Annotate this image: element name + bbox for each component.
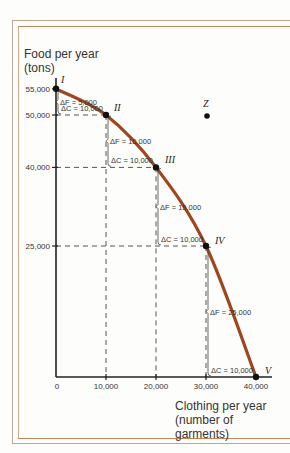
- x-tick-label: 0: [55, 382, 60, 391]
- point-label-iii: III: [164, 154, 176, 165]
- x-tick-label: 20,000: [144, 382, 169, 391]
- ppf-chart: 55,00050,00040,00025,000010,00020,00030,…: [0, 0, 290, 453]
- delta-c-label: ΔC = 10,000: [161, 235, 203, 244]
- point-z: [204, 113, 210, 119]
- delta-f-label: ΔF = 15,000: [160, 203, 201, 212]
- delta-f-label: ΔF = 10,000: [110, 137, 151, 146]
- point-ii: [103, 112, 109, 118]
- x-tick-label: 40,000: [244, 382, 269, 391]
- point-label-iv: IV: [214, 235, 226, 246]
- point-label-z: Z: [203, 98, 209, 109]
- x-tick-label: 30,000: [194, 382, 219, 391]
- point-v: [253, 374, 259, 380]
- point-i: [53, 86, 59, 92]
- point-label-v: V: [265, 365, 273, 376]
- point-label-i: I: [60, 74, 65, 85]
- y-tick-label: 50,000: [26, 111, 51, 120]
- y-tick-label: 40,000: [26, 163, 51, 172]
- point-iv: [203, 243, 209, 249]
- point-iii: [153, 164, 159, 170]
- delta-c-label: ΔC = 10,000: [211, 366, 253, 375]
- y-tick-label: 25,000: [26, 242, 51, 251]
- point-label-ii: II: [113, 102, 121, 113]
- x-tick-label: 10,000: [94, 382, 119, 391]
- delta-c-label: ΔC = 10,000: [111, 156, 153, 165]
- delta-f-label: ΔF = 25,000: [210, 308, 251, 317]
- delta-c-label: ΔC = 10,000: [61, 104, 103, 113]
- y-tick-label: 55,000: [26, 85, 51, 94]
